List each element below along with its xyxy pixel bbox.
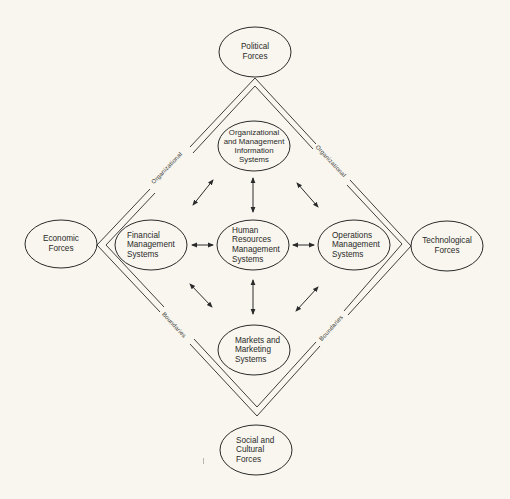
diagram-canvas: Political Forces Economic Forces Technol… (0, 0, 510, 499)
economic-forces-label: Economic Forces (25, 220, 97, 268)
social-cultural-forces-label: Social and Cultural Forces (236, 425, 286, 475)
human-resources-label: Human Resources Management Systems (232, 220, 288, 270)
financial-management-label: Financial Management Systems (127, 220, 183, 270)
technological-forces-label: Technological Forces (411, 221, 483, 271)
omis-label: Organizational and Management Informatio… (216, 121, 292, 171)
markets-marketing-label: Markets and Marketing Systems (235, 325, 291, 375)
arrow-financial-omis (193, 180, 213, 205)
political-forces-label: Political Forces (219, 27, 291, 77)
arrow-financial-markets (190, 284, 212, 307)
scan-mark (203, 458, 204, 464)
arrow-omis-operations (297, 183, 318, 207)
operations-management-label: Operations Management Systems (332, 220, 388, 270)
arrow-markets-operations (296, 287, 318, 311)
